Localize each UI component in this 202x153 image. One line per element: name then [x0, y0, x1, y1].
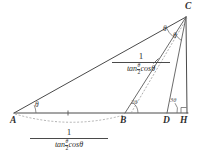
vertex-label-H: H [180, 116, 187, 126]
angle-arc-D [175, 103, 178, 113]
measure-lower-tan: tan [55, 140, 65, 149]
vertex-label-A: A [10, 116, 16, 126]
right-angle-marker-H [181, 108, 187, 114]
angle-label-C-upper: θ [163, 25, 167, 33]
measure-lower-numerator: 1 [30, 128, 108, 138]
measure-upper-numerator: 1 [112, 52, 170, 62]
angle-label-C-lower: θ [173, 32, 177, 40]
segment-CH [186, 17, 187, 113]
measure-upper-tan: tan [127, 64, 137, 73]
dashed-arc-AB [15, 114, 124, 122]
measure-lower-cos: cosθ [69, 140, 84, 149]
measure-label-upper: 1 tanθ2cosθ [112, 52, 170, 75]
angle-label-B: 2θ [131, 99, 137, 105]
vertex-label-C: C [185, 2, 191, 12]
vertex-label-D: D [163, 116, 170, 126]
measure-label-lower: 1 tanθ2cosθ [30, 128, 108, 151]
measure-upper-cos: cosθ [141, 64, 156, 73]
measure-lower-denominator: tanθ2cosθ [30, 139, 108, 151]
angle-label-D: 3θ [170, 97, 176, 103]
angle-label-A: θ [35, 101, 39, 109]
vertex-label-B: B [120, 116, 126, 126]
geometry-diagram: A B D H C θ 2θ 3θ θ θ 1 tanθ2cosθ 1 tanθ… [0, 0, 202, 153]
measure-upper-denominator: tanθ2cosθ [112, 63, 170, 75]
